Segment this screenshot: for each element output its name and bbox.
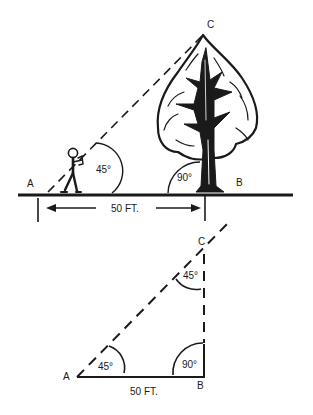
observer-figure xyxy=(61,148,83,192)
triangle-hypotenuse xyxy=(77,221,230,377)
diagram-canvas: 45° 90° A B C xyxy=(0,0,313,415)
angle-c-label: 45° xyxy=(183,270,198,281)
angle-a-label: 45° xyxy=(98,361,113,372)
triangle-point-c-label: C xyxy=(198,236,205,247)
observer-angle-label: 45° xyxy=(96,164,111,175)
triangle-point-b-label: B xyxy=(197,380,204,391)
triangle-base-label: 50 FT. xyxy=(130,386,158,397)
tree xyxy=(158,35,258,192)
triangle-diagram: 45° 90° 45° A B C 50 FT. xyxy=(63,221,230,397)
scene-distance-label: 50 FT. xyxy=(111,203,139,214)
point-c-label: C xyxy=(207,19,214,30)
scene: 45° 90° A B C xyxy=(18,19,293,222)
triangle-point-a-label: A xyxy=(63,371,70,382)
angle-b-label: 90° xyxy=(182,359,197,370)
point-b-label: B xyxy=(236,177,243,188)
tree-base-angle-label: 90° xyxy=(177,172,192,183)
point-a-label: A xyxy=(27,178,34,189)
